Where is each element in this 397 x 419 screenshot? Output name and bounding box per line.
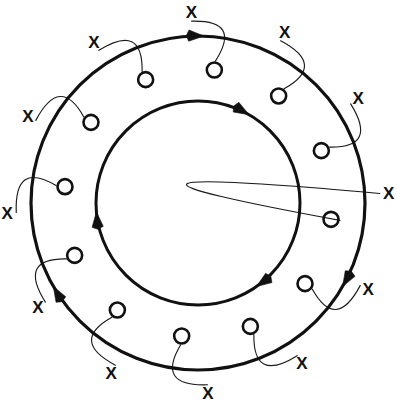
o-marker (207, 63, 222, 78)
x-marker: X (2, 204, 14, 223)
x-marker: X (296, 354, 308, 373)
o-marker-group (58, 63, 339, 344)
o-marker (58, 179, 73, 194)
x-marker: X (32, 298, 44, 317)
o-marker (271, 88, 286, 103)
o-marker (138, 72, 153, 87)
o-marker (174, 329, 189, 344)
o-marker (67, 248, 82, 263)
o-marker (314, 143, 329, 158)
o-marker (298, 276, 313, 291)
x-marker: X (353, 89, 365, 108)
x-marker: X (186, 3, 198, 22)
x-marker-group: XXXXXXXXXXXX (2, 3, 395, 404)
x-marker: X (22, 107, 34, 126)
o-marker (110, 303, 125, 318)
o-marker (83, 115, 98, 130)
x-marker: X (383, 184, 395, 203)
x-marker: X (363, 280, 375, 299)
x-marker: X (279, 23, 291, 42)
direction-arrowhead (92, 212, 103, 229)
x-marker: X (202, 384, 214, 403)
direction-arrowhead (343, 271, 355, 287)
o-marker (243, 319, 258, 334)
direction-arrowhead (186, 30, 203, 41)
arrowhead-group (53, 30, 355, 302)
diagram-canvas: XXXXXXXXXXXX (0, 0, 397, 419)
connector-arc-group (16, 21, 380, 385)
ring-group (31, 36, 365, 370)
outer-ring (31, 36, 365, 370)
x-marker: X (88, 33, 100, 52)
connector-arc (192, 21, 225, 61)
connector-arc (172, 345, 207, 385)
direction-arrowhead (233, 102, 249, 114)
connector-arc (16, 177, 56, 212)
ring-diagram: XXXXXXXXXXXX (0, 0, 397, 419)
inner-ring (96, 101, 300, 305)
x-marker: X (106, 364, 118, 383)
connector-arc (187, 182, 380, 221)
